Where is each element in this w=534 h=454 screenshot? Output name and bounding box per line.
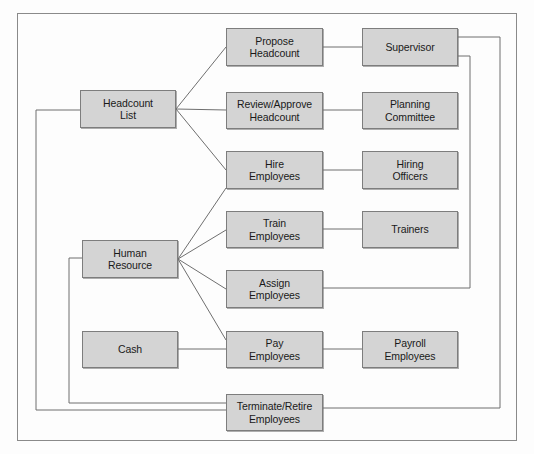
node-label: Trainers	[391, 223, 428, 236]
node-label: Headcount List	[103, 97, 153, 122]
node-label: Hiring Officers	[392, 158, 427, 183]
connector-headcount-list-to-hire-employees	[176, 109, 226, 170]
connector-human-resource-to-pay-employees	[178, 259, 226, 340]
node-label: Propose Headcount	[250, 35, 300, 60]
node-terminate-retire-employees[interactable]: Terminate/Retire Employees	[226, 394, 323, 431]
diagram-canvas: Headcount ListHuman ResourceCashPropose …	[0, 0, 534, 454]
node-label: Review/Approve Headcount	[237, 98, 312, 123]
node-supervisor[interactable]: Supervisor	[362, 28, 458, 66]
node-label: Human Resource	[108, 247, 152, 272]
node-headcount-list[interactable]: Headcount List	[80, 90, 176, 128]
connector-human-resource-to-hire-employees	[178, 188, 226, 259]
connector-human-resource-to-assign-employees	[178, 259, 226, 289]
node-hire-employees[interactable]: Hire Employees	[226, 151, 323, 189]
node-train-employees[interactable]: Train Employees	[226, 211, 323, 248]
node-label: Supervisor	[385, 41, 434, 54]
node-label: Pay Employees	[249, 337, 300, 362]
node-pay-employees[interactable]: Pay Employees	[226, 331, 323, 368]
node-label: Terminate/Retire Employees	[237, 400, 312, 425]
connector-human-resource-to-train-employees	[178, 230, 226, 259]
node-cash[interactable]: Cash	[82, 331, 178, 368]
node-review-approve-headcount[interactable]: Review/Approve Headcount	[226, 92, 323, 129]
node-human-resource[interactable]: Human Resource	[82, 240, 178, 278]
connector-headcount-list-to-propose-headcount	[176, 47, 226, 109]
node-propose-headcount[interactable]: Propose Headcount	[226, 28, 323, 66]
node-label: Planning Committee	[385, 98, 435, 123]
node-assign-employees[interactable]: Assign Employees	[226, 270, 323, 308]
node-label: Cash	[118, 343, 142, 356]
node-planning-committee[interactable]: Planning Committee	[362, 92, 458, 129]
node-label: Train Employees	[249, 217, 300, 242]
node-label: Hire Employees	[249, 158, 300, 183]
node-label: Payroll Employees	[384, 337, 435, 362]
node-label: Assign Employees	[249, 277, 300, 302]
node-hiring-officers[interactable]: Hiring Officers	[362, 151, 458, 189]
node-payroll-employees[interactable]: Payroll Employees	[362, 331, 458, 368]
connector-headcount-list-to-review-approve	[176, 109, 226, 110]
node-trainers[interactable]: Trainers	[362, 211, 458, 248]
